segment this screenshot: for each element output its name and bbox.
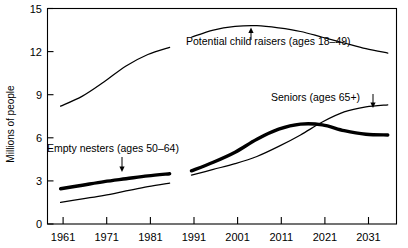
y-axis-title: Millions of people	[5, 85, 16, 163]
y-tick-3: 3	[36, 175, 42, 187]
x-tick-1991: 1991	[182, 231, 206, 243]
annotation-label-empty-nesters: Empty nesters (ages 50–64)	[47, 142, 179, 154]
y-tick-15: 15	[30, 3, 42, 15]
series-line-2-projected	[191, 105, 387, 175]
y-tick-6: 6	[36, 132, 42, 144]
series-line-0-historical	[61, 47, 170, 106]
x-tick-2021: 2021	[313, 231, 337, 243]
x-tick-1981: 1981	[138, 231, 162, 243]
x-tick-1961: 1961	[51, 231, 75, 243]
y-tick-12: 12	[30, 46, 42, 58]
x-tick-1971: 1971	[94, 231, 118, 243]
x-tick-2001: 2001	[225, 231, 249, 243]
annotation-empty-nesters: Empty nesters (ages 50–64)	[47, 142, 179, 172]
annotation-seniors: Seniors (ages 65+)	[271, 91, 376, 108]
population-projection-line-chart: Millions of people 0 3 6 9 12 15	[0, 0, 408, 248]
y-tick-0: 0	[36, 218, 42, 230]
x-tick-2031: 2031	[356, 231, 380, 243]
arrow-down-icon	[119, 167, 124, 173]
series-layer	[61, 26, 388, 203]
annotation-label-seniors: Seniors (ages 65+)	[271, 91, 360, 103]
series-line-1-historical	[61, 174, 170, 189]
annotation-label-potential-child-raisers: Potential child raisers (ages 18–49)	[186, 35, 351, 47]
x-tick-2011: 2011	[269, 231, 293, 243]
y-axis-ticks	[48, 9, 54, 225]
y-axis-tick-labels: 0 3 6 9 12 15	[30, 3, 42, 230]
series-line-1-projected	[191, 124, 387, 171]
x-axis-ticks	[63, 217, 368, 224]
arrow-up-icon	[248, 28, 253, 34]
y-tick-9: 9	[36, 89, 42, 101]
x-axis-tick-labels: 1961 1971 1981 1991 2001 2011 2021 2031	[51, 231, 381, 243]
chart-container: Millions of people 0 3 6 9 12 15	[0, 0, 408, 248]
